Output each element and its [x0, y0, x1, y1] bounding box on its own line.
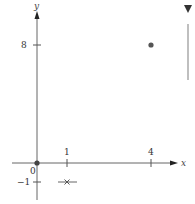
- x-axis-label: x: [181, 158, 186, 168]
- y-axis-arrow-icon: [35, 11, 40, 19]
- y-tick-label-8: 8: [21, 40, 27, 50]
- origin-point: [34, 160, 39, 165]
- y-axis-label: y: [33, 1, 40, 11]
- point-4-8: [148, 42, 153, 47]
- x-tick-label-4: 4: [148, 147, 154, 157]
- x-axis-arrow-icon: [170, 161, 178, 166]
- cross-marker-1-neg1: [58, 180, 77, 185]
- coordinate-plane: y x 0 1 4 8 −1: [0, 0, 195, 204]
- x-tick-label-1: 1: [64, 147, 70, 157]
- triangle-down-icon[interactable]: [184, 5, 192, 13]
- y-tick-label-neg1: −1: [17, 177, 30, 187]
- origin-label: 0: [30, 166, 36, 176]
